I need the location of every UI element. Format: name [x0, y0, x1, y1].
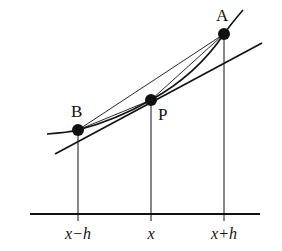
tick-label-x: x [146, 225, 154, 242]
label-P: P [158, 105, 167, 124]
tangent-line [55, 43, 262, 154]
label-A: A [216, 6, 229, 25]
secant-B-P [78, 100, 151, 130]
label-B: B [71, 102, 82, 121]
secant-P-A [151, 34, 224, 100]
tick-label-x-minus-h: x−h [64, 225, 91, 242]
point-B [72, 124, 84, 136]
point-P [145, 94, 157, 106]
point-A [218, 28, 230, 40]
derivative-diagram: A P B x−h x x+h [0, 0, 282, 251]
tick-label-x-plus-h: x+h [210, 225, 237, 242]
